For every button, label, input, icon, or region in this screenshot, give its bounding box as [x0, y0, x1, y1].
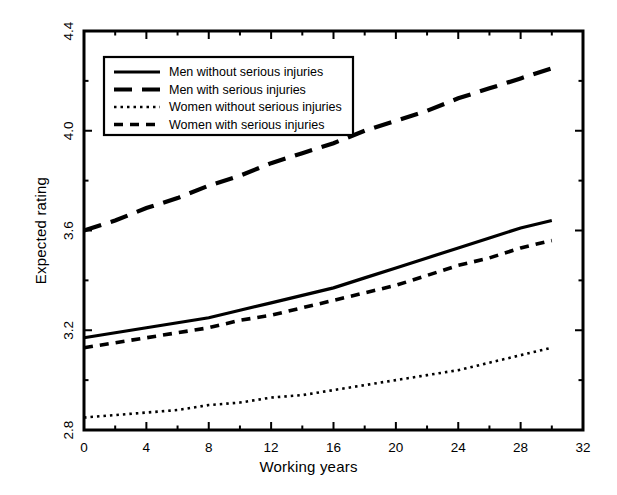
x-tick-label: 12 — [264, 440, 279, 455]
x-axis-tick-labels: 048121620242832 — [80, 440, 590, 455]
x-tick-label: 16 — [326, 440, 341, 455]
y-tick-label: 2.8 — [61, 421, 76, 440]
chart-legend: Men without serious injuriesMen with ser… — [104, 57, 353, 135]
y-tick-label: 3.6 — [61, 221, 76, 240]
line-chart: 048121620242832 2.83.23.64.04.4 Men with… — [0, 0, 617, 495]
x-tick-label: 8 — [205, 440, 213, 455]
y-tick-label: 3.2 — [61, 321, 76, 340]
x-tick-label: 24 — [451, 440, 467, 455]
y-axis-title: Expected rating — [32, 131, 49, 331]
x-tick-label: 28 — [513, 440, 528, 455]
legend-label-3: Women with serious injuries — [169, 118, 324, 132]
y-tick-label: 4.4 — [61, 21, 76, 40]
x-tick-label: 32 — [575, 440, 590, 455]
x-tick-label: 0 — [80, 440, 88, 455]
legend-label-0: Men without serious injuries — [169, 65, 323, 79]
y-tick-label: 4.0 — [61, 121, 76, 140]
x-tick-label: 4 — [143, 440, 151, 455]
x-tick-label: 20 — [388, 440, 403, 455]
legend-label-2: Women without serious injuries — [169, 100, 342, 114]
y-axis-tick-labels: 2.83.23.64.04.4 — [61, 21, 76, 439]
figure-container: 048121620242832 2.83.23.64.04.4 Men with… — [0, 0, 617, 495]
legend-label-1: Men with serious injuries — [169, 83, 306, 97]
x-axis-title: Working years — [0, 458, 617, 475]
